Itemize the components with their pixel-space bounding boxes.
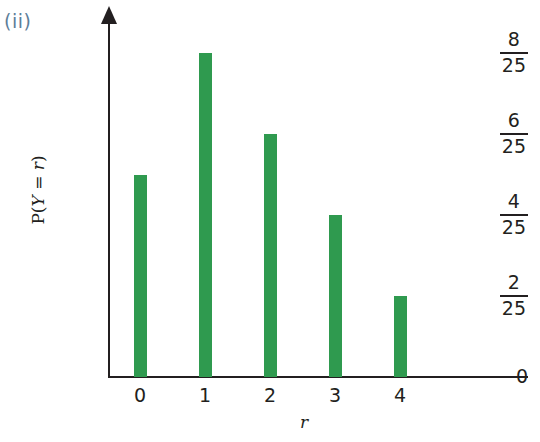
y-axis-title-rvariable: r (28, 162, 48, 170)
fraction-denominator: 25 (500, 137, 528, 157)
y-axis-tick-label: 625 (436, 111, 540, 157)
bar (329, 215, 342, 377)
y-axis-title-prefix: P( (28, 207, 48, 225)
y-axis-title-variable: Y (28, 195, 48, 206)
y-axis-title-suffix: ) (28, 155, 48, 162)
fraction-denominator: 25 (500, 299, 528, 319)
bar (134, 175, 147, 378)
y-axis-tick-label: 225 (436, 273, 540, 319)
x-axis-tick-label: 2 (250, 384, 290, 406)
x-axis-title: r (300, 412, 308, 432)
y-axis-tick-label: 425 (436, 192, 540, 238)
y-axis-title-equals: = (28, 170, 48, 195)
fraction: 225 (500, 273, 540, 319)
fraction-numerator: 6 (506, 111, 522, 131)
fraction: 425 (500, 192, 540, 238)
probability-bar-chart: (ii) P(Y = r) 825625425225001234 r (0, 0, 540, 442)
bar (394, 296, 407, 377)
fraction-numerator: 8 (506, 30, 522, 50)
y-axis-zero-label: 0 (436, 365, 540, 387)
fraction-numerator: 4 (506, 192, 522, 212)
x-axis-tick-label: 3 (315, 384, 355, 406)
fraction-numerator: 2 (506, 273, 522, 293)
x-axis-tick-label: 4 (380, 384, 420, 406)
y-axis-line (108, 20, 110, 378)
x-axis-tick-label: 1 (185, 384, 225, 406)
fraction: 625 (500, 111, 540, 157)
part-label: (ii) (4, 10, 31, 32)
y-axis-title: P(Y = r) (28, 130, 48, 250)
bar (264, 134, 277, 377)
bar (199, 53, 212, 377)
fraction-denominator: 25 (500, 56, 528, 76)
y-axis-tick-label: 825 (436, 30, 540, 76)
fraction-denominator: 25 (500, 218, 528, 238)
x-axis-tick-label: 0 (120, 384, 160, 406)
fraction: 825 (500, 30, 540, 76)
